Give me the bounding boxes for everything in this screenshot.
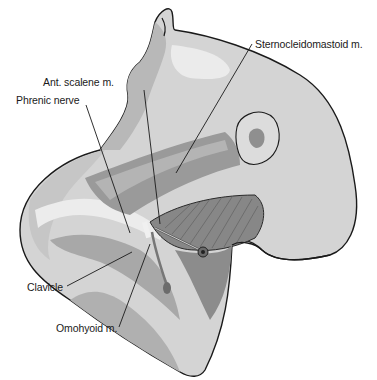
label-sternocleidomastoid: Sternocleidomastoid m. <box>255 38 363 50</box>
label-omohyoid: Omohyoid m. <box>56 322 117 334</box>
label-clavicle: Clavicle <box>27 281 63 293</box>
anatomy-figure: Sternocleidomastoid m. Ant. scalene m. P… <box>0 0 377 380</box>
label-phrenic-nerve: Phrenic nerve <box>16 94 79 106</box>
label-ant-scalene: Ant. scalene m. <box>43 76 114 88</box>
nerve-end <box>163 282 171 294</box>
